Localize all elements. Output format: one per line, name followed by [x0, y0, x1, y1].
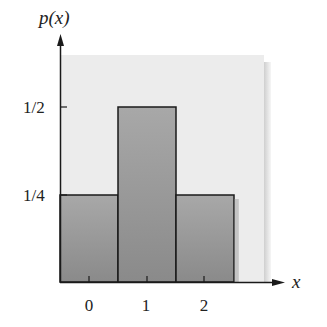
bar-1	[118, 107, 176, 282]
x-tick-label-1: 1	[142, 296, 151, 315]
y-tick-label-half: 1/2	[23, 98, 45, 117]
y-axis-arrow-icon	[57, 34, 64, 46]
bar-2	[176, 195, 234, 282]
x-tick-label-2: 2	[200, 296, 209, 315]
bar-2-shadow	[235, 199, 239, 282]
y-tick-label-quarter: 1/4	[23, 186, 45, 205]
y-axis-label: p(x)	[37, 7, 70, 29]
x-axis-label: x	[291, 271, 301, 292]
x-axis-arrow-icon	[272, 279, 285, 286]
probability-histogram: p(x) x 1/2 1/4 0 1 2	[0, 0, 327, 327]
x-tick-label-0: 0	[85, 296, 94, 315]
plot-panel-shadow	[264, 62, 271, 282]
bar-0	[60, 195, 118, 282]
